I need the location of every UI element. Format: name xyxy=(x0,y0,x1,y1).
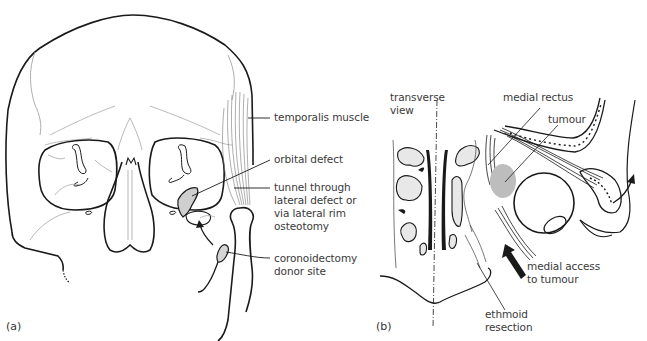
medial-access-arrow xyxy=(502,244,526,279)
zygoma-lines xyxy=(30,212,215,240)
label-tunnel: tunnel through lateral defect or via lat… xyxy=(274,181,357,233)
nasal-floor xyxy=(380,268,491,303)
label-tumour: tumour xyxy=(548,113,586,126)
lower-skin-contour xyxy=(580,220,612,237)
nasal-septum xyxy=(126,158,136,165)
temporal-line-right xyxy=(228,55,234,100)
midline xyxy=(433,100,437,328)
leader-ethmoid xyxy=(477,263,505,310)
orbital-defect-shape xyxy=(178,188,198,217)
nasal-lines xyxy=(118,118,142,240)
brow-right xyxy=(150,106,220,135)
lateral-access-arrow-head xyxy=(627,174,635,184)
left-orbit-sutures xyxy=(48,155,112,195)
infraorbital-foramen-right xyxy=(170,211,176,214)
nasal-aperture xyxy=(104,162,154,252)
left-orbit-fissure xyxy=(72,145,88,186)
ethmoid-resection-lines xyxy=(465,225,486,268)
left-orbit xyxy=(39,140,117,210)
brow-left xyxy=(50,106,115,135)
nasal-wall-left xyxy=(393,140,396,268)
label-transverse-view: transverse view xyxy=(390,91,445,117)
transfer-arrow-shaft xyxy=(200,225,213,245)
lateral-orbital-rim xyxy=(580,169,621,213)
mandible-left-curve xyxy=(198,262,218,292)
right-orbit-fissure xyxy=(169,145,191,183)
label-ethmoid-resection: ethmoid resection xyxy=(485,308,532,334)
transfer-arrow-head xyxy=(196,220,204,228)
anatomical-diagram xyxy=(0,0,647,341)
tumour xyxy=(490,164,516,198)
temporal-line-left xyxy=(30,52,40,135)
ethmoid-cells-left xyxy=(396,148,426,255)
infraorbital-foramen-left xyxy=(86,211,92,214)
coronoid-process-right xyxy=(240,208,253,312)
label-medial-access: medial access to tumour xyxy=(527,260,600,286)
left-jaw-dotted xyxy=(63,270,70,283)
label-medial-rectus: medial rectus xyxy=(503,91,573,104)
label-orbital-defect: orbital defect xyxy=(274,153,343,166)
leader-coronoid xyxy=(226,252,270,258)
left-cheek-outline xyxy=(12,232,63,270)
cranium-outline xyxy=(6,15,253,232)
panel-b-label: (b) xyxy=(376,320,392,333)
coronoid-donor-site xyxy=(217,245,228,262)
panel-a-label: (a) xyxy=(6,320,21,333)
leader-medial-rectus xyxy=(488,108,540,165)
orbit-transverse-drawing xyxy=(380,98,635,328)
label-temporalis-muscle: temporalis muscle xyxy=(274,111,369,124)
coronoid-process xyxy=(218,208,240,341)
label-coronoidectomy-donor-site: coronoidectomy donor site xyxy=(274,252,357,278)
skull-drawing xyxy=(6,15,270,341)
